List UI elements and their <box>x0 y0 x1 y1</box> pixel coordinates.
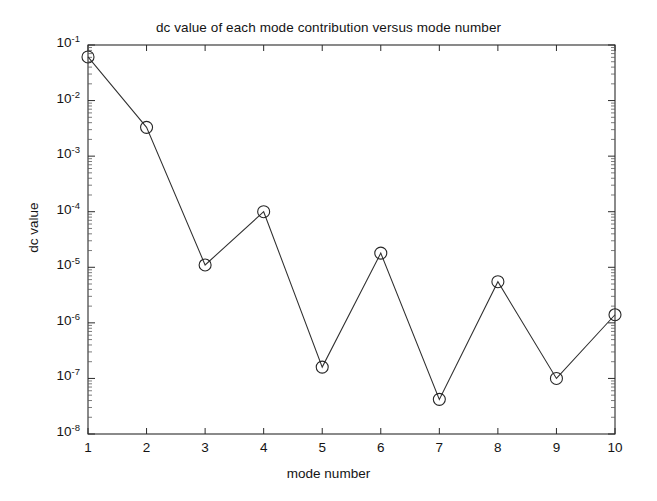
figure-canvas: dc value of each mode contribution versu… <box>0 0 657 501</box>
data-series-line <box>88 57 615 399</box>
axis-ticks <box>88 45 615 434</box>
axis-frame <box>88 45 615 434</box>
axes-frame <box>88 45 615 434</box>
plot-area <box>0 0 657 501</box>
series-polyline <box>88 57 615 399</box>
